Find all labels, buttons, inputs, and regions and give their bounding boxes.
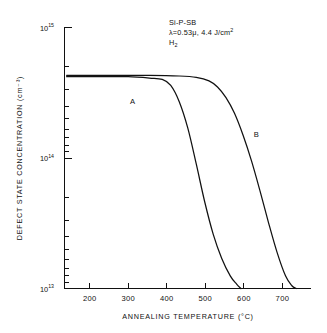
annotation-block: Si-P-SB λ=0.53μ, 4.4 J/cm2 H2	[169, 18, 234, 48]
x-axis-ticks	[90, 283, 283, 289]
x-axis-title: ANNEALING TEMPERATURE (°C)	[122, 312, 254, 321]
curve-label-a: A	[130, 97, 136, 106]
curve-series-a	[67, 77, 241, 289]
y-tick-label-1e13: 1013	[40, 283, 54, 293]
plot-axes	[65, 27, 312, 289]
y-tick-label-1e15: 1015	[40, 22, 54, 32]
annotation-laser: λ=0.53μ, 4.4 J/cm2	[169, 27, 234, 37]
x-axis-tick-labels: 200 300 400 500 600 700	[83, 294, 289, 303]
x-tick-label-600: 600	[237, 294, 251, 303]
curve-label-b: B	[254, 130, 259, 139]
annotation-ambient: H2	[169, 38, 178, 48]
x-tick-label-400: 400	[160, 294, 174, 303]
data-curves	[67, 75, 297, 288]
x-tick-label-700: 700	[276, 294, 290, 303]
x-tick-label-200: 200	[83, 294, 97, 303]
y-axis-title: DEFECT STATE CONCENTRATION (cm⁻³)	[15, 76, 24, 240]
defect-state-concentration-chart: 1015 1014 1013 200 300 400 500 600 700 A…	[0, 0, 327, 333]
x-tick-label-300: 300	[121, 294, 135, 303]
axis-lines	[65, 27, 312, 289]
y-axis-ticks	[65, 28, 72, 289]
y-tick-label-1e14: 1014	[40, 153, 54, 163]
figure-container: 1015 1014 1013 200 300 400 500 600 700 A…	[0, 0, 327, 333]
annotation-sample: Si-P-SB	[169, 18, 196, 27]
x-tick-label-500: 500	[199, 294, 213, 303]
y-axis-tick-labels: 1015 1014 1013	[40, 22, 54, 293]
